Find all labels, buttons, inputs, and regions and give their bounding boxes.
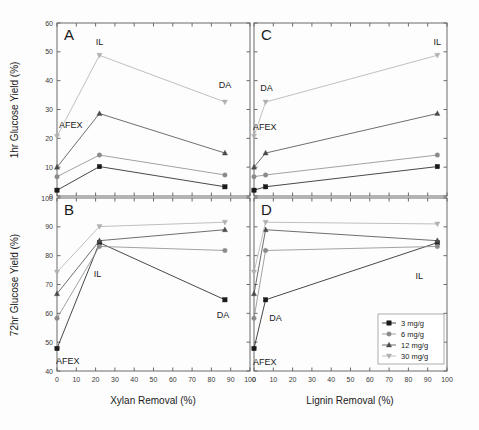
data-point	[263, 185, 267, 189]
y-tick-label: 30	[45, 106, 53, 113]
data-point	[97, 244, 102, 249]
x-tick-label: 20	[289, 376, 297, 383]
point-label-afex-c: AFEX	[253, 122, 277, 132]
x-tick-label: 10	[72, 376, 80, 383]
data-point	[435, 164, 439, 168]
series-line-0	[254, 167, 437, 191]
panel-a: 0102030405060AAFEXILDA	[45, 20, 250, 200]
x-tick-label: 10	[269, 376, 277, 383]
data-point	[252, 316, 257, 321]
series-markers-3	[251, 53, 440, 139]
series-markers-2	[251, 227, 440, 296]
data-point	[223, 185, 227, 189]
point-label-da-d: DA	[269, 313, 282, 323]
series-line-0	[57, 243, 225, 349]
series-line-3	[57, 222, 225, 272]
y-tick-label: 60	[45, 20, 53, 27]
panel-letter-c: C	[261, 26, 272, 43]
point-label-da-b: DA	[217, 310, 230, 320]
x-tick-label: 20	[92, 376, 100, 383]
data-point	[435, 222, 440, 227]
series-line-2	[254, 114, 437, 168]
legend-label: 30 mg/g	[401, 352, 428, 361]
point-label-il-c: IL	[434, 37, 442, 47]
x-tick-label: 60	[169, 376, 177, 383]
y-tick-label: 50	[45, 48, 53, 55]
series-line-2	[254, 230, 437, 294]
series-markers-1	[55, 244, 228, 320]
y-tick-label: 40	[45, 77, 53, 84]
data-point	[55, 346, 59, 350]
point-label-afex-d: AFEX	[253, 357, 277, 367]
data-point	[55, 174, 60, 179]
legend-label: 12 mg/g	[401, 341, 428, 350]
point-label-da-c: DA	[260, 83, 273, 93]
panel-frame-a	[57, 23, 250, 196]
data-point	[435, 153, 440, 158]
data-point	[435, 111, 440, 116]
series-line-1	[57, 246, 225, 318]
x-tick-label: 90	[424, 376, 432, 383]
data-point	[263, 248, 268, 253]
data-point	[223, 248, 228, 253]
data-point	[263, 173, 268, 178]
x-tick-label: 80	[405, 376, 413, 383]
data-point	[55, 316, 60, 321]
x-tick-label: 50	[150, 376, 158, 383]
data-point	[55, 188, 59, 192]
point-label-il-b: IL	[94, 269, 102, 279]
series-line-0	[57, 167, 225, 191]
data-point	[223, 298, 227, 302]
point-label-il-a: IL	[96, 37, 104, 47]
data-point	[252, 174, 257, 179]
y-tick-label: 80	[45, 252, 53, 259]
series-line-1	[254, 246, 437, 318]
series-markers-0	[55, 240, 227, 350]
x-tick-label: 0	[252, 376, 256, 383]
figure-container: 0102030405060AAFEXILDA010203040506070809…	[0, 0, 479, 430]
data-point	[263, 298, 267, 302]
point-label-il-d: IL	[416, 271, 424, 281]
panel-frame-c	[254, 23, 447, 196]
x-tick-label: 30	[308, 376, 316, 383]
data-point	[252, 188, 256, 192]
panel-letter-b: B	[64, 201, 74, 218]
y-tick-label: 70	[45, 281, 53, 288]
legend: 3 mg/g6 mg/g12 mg/g30 mg/g	[378, 314, 444, 364]
legend-label: 6 mg/g	[401, 330, 424, 339]
data-point	[222, 227, 227, 232]
y-tick-label: 50	[45, 339, 53, 346]
point-label-afex-b: AFEX	[56, 356, 80, 366]
y-tick-label: 90	[45, 223, 53, 230]
x-tick-label: 30	[111, 376, 119, 383]
legend-marker-square	[387, 321, 391, 325]
series-markers-0	[55, 164, 227, 192]
x-tick-label: 70	[385, 376, 393, 383]
y-tick-label: 40	[45, 368, 53, 375]
series-line-1	[254, 155, 437, 177]
figure-canvas: 0102030405060AAFEXILDA010203040506070809…	[0, 0, 479, 430]
x-tick-label: 60	[366, 376, 374, 383]
data-point	[251, 291, 256, 296]
x-tick-label: 80	[208, 376, 216, 383]
panel-frame-b	[57, 198, 250, 371]
point-label-da-a: DA	[219, 80, 232, 90]
legend-marker-circle	[387, 332, 392, 337]
x-tick-label: 50	[347, 376, 355, 383]
panel-letter-d: D	[261, 201, 272, 218]
data-point	[252, 346, 256, 350]
y-tick-label: 100	[41, 195, 53, 202]
series-markers-1	[252, 244, 440, 320]
x-tick-label: 90	[227, 376, 235, 383]
panel-letter-a: A	[64, 26, 74, 43]
data-point	[54, 270, 59, 275]
data-point	[435, 244, 440, 249]
legend-label: 3 mg/g	[401, 319, 424, 328]
series-line-3	[254, 55, 437, 136]
data-point	[251, 270, 256, 275]
series-markers-3	[251, 220, 440, 275]
data-point	[97, 164, 101, 168]
point-label-afex-a: AFEX	[59, 120, 83, 130]
data-point	[223, 173, 228, 178]
x-tick-label: 40	[327, 376, 335, 383]
